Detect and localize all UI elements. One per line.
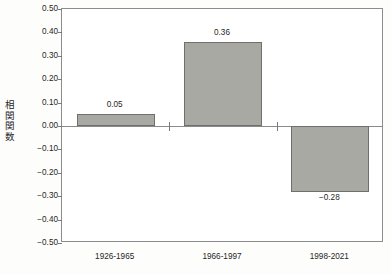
y-axis-tick-mark <box>58 220 62 221</box>
x-axis-category-label: 1998-2021 <box>310 252 349 261</box>
y-axis-tick-mark <box>58 196 62 197</box>
y-axis-tick-label: 0.10 <box>22 97 58 106</box>
y-axis-tick-mark <box>58 173 62 174</box>
y-axis-tick-mark <box>58 79 62 80</box>
x-axis-category-label: 1926-1965 <box>95 252 134 261</box>
category-separator-tick <box>277 122 278 131</box>
y-axis-tick-label: 0.00 <box>22 121 58 130</box>
y-axis-tick-label: −0.20 <box>22 167 58 176</box>
y-axis-tick-mark <box>58 243 62 244</box>
y-axis-tick-label: −0.40 <box>22 214 58 223</box>
bar-value-label: 0.36 <box>214 28 230 37</box>
y-axis-tick-mark <box>58 149 62 150</box>
bar <box>184 42 262 126</box>
y-axis-tick-label: 0.20 <box>22 74 58 83</box>
y-axis-tick-mark <box>58 126 62 127</box>
y-axis-tick-label: −0.10 <box>22 144 58 153</box>
plot-area <box>61 8 383 242</box>
bar <box>77 114 155 126</box>
y-axis-tick-label: −0.50 <box>22 238 58 247</box>
y-axis-tick-label: 0.30 <box>22 50 58 59</box>
y-axis-title: 相関関数 <box>3 100 17 142</box>
y-axis-tick-mark <box>58 56 62 57</box>
y-axis-tick-label: −0.30 <box>22 191 58 200</box>
y-axis-tick-mark <box>58 9 62 10</box>
y-axis-tick-mark <box>58 32 62 33</box>
bar-chart-figure: 相関関数 0.500.400.300.200.100.00−0.10−0.20−… <box>0 0 391 275</box>
y-axis-tick-label: 0.40 <box>22 27 58 36</box>
category-separator-tick <box>169 122 170 131</box>
x-axis-category-label: 1966-1997 <box>202 252 241 261</box>
bar <box>291 126 369 192</box>
y-axis-tick-mark <box>58 103 62 104</box>
bar-value-label: −0.28 <box>319 193 340 202</box>
bar-value-label: 0.05 <box>107 100 123 109</box>
y-axis-tick-label: 0.50 <box>22 4 58 13</box>
y-axis-tick-labels: 0.500.400.300.200.100.00−0.10−0.20−0.30−… <box>18 0 58 275</box>
